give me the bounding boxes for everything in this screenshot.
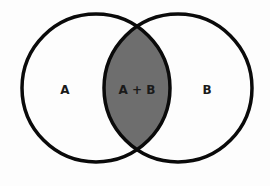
venn-diagram: A A + B B [0,0,270,186]
set-b-label: B [202,83,211,97]
set-a-label: A [60,83,69,97]
intersection-label: A + B [119,83,156,97]
